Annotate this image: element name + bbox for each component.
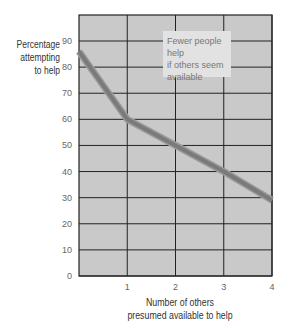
y-tick-label: 30	[62, 193, 72, 203]
x-tick-label: 4	[269, 282, 274, 292]
x-axis-label-line: Number of others	[127, 296, 233, 309]
annotation-box: Fewer people help if others seem availab…	[163, 31, 231, 77]
y-tick-label: 90	[62, 36, 72, 46]
y-tick-label: 80	[62, 62, 72, 72]
y-tick-label: 0	[67, 271, 72, 281]
y-tick-label: 50	[62, 140, 72, 150]
annotation-line: Fewer people help	[167, 35, 227, 59]
y-tick-label: 40	[62, 167, 72, 177]
x-axis-label: Number of others presumed available to h…	[127, 296, 233, 322]
y-tick-label: 60	[62, 114, 72, 124]
y-tick-label: 20	[62, 219, 72, 229]
line-chart: 01020304050607080901234	[0, 0, 292, 329]
annotation-line: available	[167, 71, 227, 83]
x-tick-label: 2	[173, 282, 178, 292]
y-tick-label: 10	[62, 245, 72, 255]
annotation-line: if others seem	[167, 59, 227, 71]
y-tick-label: 70	[62, 88, 72, 98]
x-tick-label: 1	[125, 282, 130, 292]
x-axis-label-line: presumed available to help	[127, 309, 233, 322]
x-tick-label: 3	[221, 282, 226, 292]
